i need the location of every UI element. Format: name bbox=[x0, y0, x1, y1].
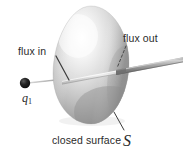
closed-surface-text: closed surface bbox=[52, 134, 121, 146]
flux-diagram: flux in flux out q1 closed surfaceS bbox=[0, 0, 183, 155]
flux-in-label: flux in bbox=[18, 46, 46, 57]
flux-out-label: flux out bbox=[123, 33, 158, 44]
point-charge-dot bbox=[20, 78, 30, 88]
charge-subscript: 1 bbox=[28, 97, 32, 106]
charge-label: q1 bbox=[22, 92, 32, 106]
diagram-canvas bbox=[0, 0, 183, 155]
closed-surface-symbol: S bbox=[121, 132, 131, 149]
closed-surface-label: closed surfaceS bbox=[52, 133, 131, 149]
